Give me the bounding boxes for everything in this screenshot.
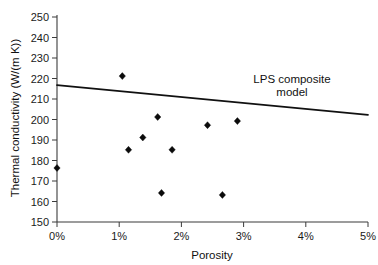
y-tick-label: 160 (31, 196, 49, 208)
x-tick-label: 3% (236, 230, 252, 242)
y-tick-label: 220 (31, 73, 49, 85)
x-tick-label: 0% (49, 230, 65, 242)
y-tick-label: 210 (31, 93, 49, 105)
y-tick-label: 180 (31, 155, 49, 167)
plot-area-background (57, 15, 368, 222)
y-axis-title: Thermal conductivity (W/(m K)) (9, 39, 21, 198)
y-axis-ticks (52, 17, 57, 222)
y-tick-label: 150 (31, 216, 49, 228)
y-tick-label: 250 (31, 11, 49, 23)
y-tick-label: 190 (31, 134, 49, 146)
x-tick-label: 5% (360, 230, 376, 242)
x-axis-ticks (57, 222, 368, 227)
y-tick-label: 170 (31, 175, 49, 187)
x-axis-tick-labels: 0% 1% 2% 3% 4% 5% (49, 230, 376, 242)
chart-container: 250 240 230 220 210 200 190 180 170 160 … (0, 0, 378, 265)
x-axis-title: Porosity (191, 249, 233, 261)
y-tick-label: 230 (31, 52, 49, 64)
x-tick-label: 1% (111, 230, 127, 242)
x-tick-label: 2% (173, 230, 189, 242)
y-tick-label: 200 (31, 114, 49, 126)
y-axis-tick-labels: 250 240 230 220 210 200 190 180 170 160 … (31, 11, 49, 228)
x-tick-label: 4% (298, 230, 314, 242)
scatter-chart: 250 240 230 220 210 200 190 180 170 160 … (0, 0, 378, 265)
svg-text:LPS composite: LPS composite (253, 73, 330, 85)
y-tick-label: 240 (31, 32, 49, 44)
svg-text:model: model (276, 86, 307, 98)
